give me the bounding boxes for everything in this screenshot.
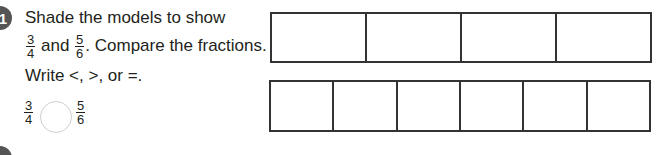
fourths-cell-3[interactable] (462, 14, 557, 61)
instruction-line-2: 3 4 and 5 6 . Compare the fractions. (25, 33, 267, 60)
fourths-model (270, 12, 652, 63)
sixths-cell-4[interactable] (461, 82, 524, 130)
instruction-line-3: Write <, >, or =. (25, 64, 142, 88)
sixths-model (269, 80, 651, 132)
problem-number-badge: 1 (0, 6, 12, 30)
sixths-cell-6[interactable] (588, 82, 649, 130)
fourths-cell-4[interactable] (557, 14, 650, 61)
fourths-cell-2[interactable] (367, 14, 462, 61)
sixths-cell-3[interactable] (398, 82, 461, 130)
comparison-answer-circle[interactable] (40, 101, 72, 133)
sixths-cell-1[interactable] (271, 82, 334, 130)
sixths-cell-2[interactable] (334, 82, 397, 130)
compare-right-fraction: 5 6 (75, 99, 86, 126)
instruction-line-1: Shade the models to show (25, 6, 225, 30)
fraction-three-fourths: 3 4 (26, 33, 35, 60)
next-problem-badge (0, 146, 12, 155)
fraction-five-sixths: 5 6 (75, 33, 84, 60)
fourths-cell-1[interactable] (272, 14, 367, 61)
compare-left-fraction: 3 4 (23, 99, 34, 126)
sixths-cell-5[interactable] (524, 82, 587, 130)
